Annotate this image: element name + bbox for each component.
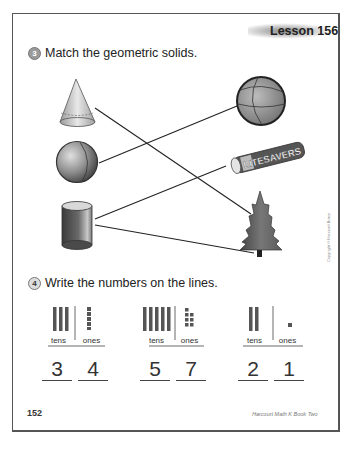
- ones-label: ones: [75, 336, 108, 345]
- tens-label: tens: [42, 336, 75, 345]
- ones-answer[interactable]: 4: [78, 358, 108, 381]
- match-line-cone-tree: [95, 108, 251, 214]
- match-line-cylinder-tree: [95, 225, 254, 253]
- ones-label: ones: [173, 336, 206, 345]
- ones-label: ones: [271, 336, 304, 345]
- candy-roll-icon[interactable]: LITESAVERS: [230, 141, 306, 175]
- tens-answer[interactable]: 5: [140, 358, 170, 381]
- problem-4-instruction: 4 Write the numbers on the lines.: [28, 276, 218, 290]
- instruction-text: Write the numbers on the lines.: [45, 276, 218, 290]
- match-line-sphere-ball: [99, 106, 237, 163]
- book-credit: Harcourt Math K Book Two: [252, 411, 318, 417]
- problem-number-badge: 4: [28, 277, 41, 290]
- tens-answer[interactable]: 2: [238, 358, 268, 381]
- cone-icon[interactable]: [60, 79, 95, 127]
- tens-answer[interactable]: 3: [42, 358, 72, 381]
- copyright-note: Copyright © Harcourt Brace: [326, 213, 331, 262]
- match-lines: [95, 106, 254, 253]
- match-line-cylinder-roll: [95, 166, 226, 219]
- ball-icon[interactable]: [237, 77, 285, 125]
- pine-tree-icon[interactable]: [240, 191, 282, 257]
- tens-label: tens: [140, 336, 173, 345]
- tens-label: tens: [238, 336, 271, 345]
- page-number: 152: [27, 408, 42, 418]
- cylinder-icon[interactable]: [62, 202, 92, 250]
- sphere-icon[interactable]: [57, 142, 98, 183]
- ones-answer[interactable]: 7: [176, 358, 206, 381]
- ones-answer[interactable]: 1: [274, 358, 304, 381]
- matching-art: LITESAVERS: [0, 0, 359, 457]
